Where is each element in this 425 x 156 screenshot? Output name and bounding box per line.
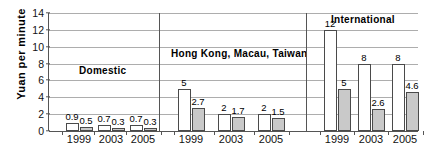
bar: [130, 125, 143, 131]
bar: [272, 118, 285, 131]
bar: [218, 114, 231, 131]
x-axis-label-2005: 2005: [393, 134, 417, 145]
y-tick-mark-6: [46, 80, 50, 81]
x-axis-label-2005: 2005: [131, 134, 155, 145]
x-tick-mark: [62, 131, 63, 135]
bar-value-label: 8: [361, 53, 366, 63]
bar: [144, 128, 157, 131]
y-tick-label-10: 10: [32, 41, 44, 52]
x-tick-mark: [289, 131, 290, 135]
bar-value-label: 0.7: [129, 114, 142, 124]
bar-value-label: 2: [221, 103, 226, 113]
panel-caption: International: [331, 14, 395, 25]
y-tick-mark-2: [46, 113, 50, 114]
y-tick-label-14: 14: [32, 8, 44, 19]
bar-value-label: 2.7: [191, 97, 204, 107]
x-axis-label-2003: 2003: [99, 134, 123, 145]
y-tick-mark-4: [46, 97, 50, 98]
panel-caption: Hong Kong, Macau, Taiwan: [171, 48, 307, 59]
bar-value-label: 2: [261, 103, 266, 113]
bar: [178, 89, 191, 131]
bar-value-label: 2.6: [371, 98, 384, 108]
y-tick-mark-0: [46, 130, 50, 131]
gridline-0: [49, 131, 418, 132]
panel-separator: [306, 13, 307, 131]
bar-value-label: 0.5: [79, 116, 92, 126]
x-tick-mark: [214, 131, 215, 135]
bar-chart: Yuan per minute 02468101214Domestic0.90.…: [0, 0, 425, 156]
panel-separator: [159, 13, 160, 131]
bar-value-label: 0.7: [97, 114, 110, 124]
bar-value-label: 1.5: [271, 107, 284, 117]
x-tick-mark: [161, 131, 162, 135]
bar: [192, 108, 205, 131]
y-tick-label-4: 4: [38, 92, 44, 103]
bar: [324, 30, 337, 131]
bar-value-label: 4.6: [405, 81, 418, 91]
bar: [112, 128, 125, 131]
x-tick-mark: [388, 131, 389, 135]
bar-value-label: 5: [181, 78, 186, 88]
bar-value-label: 0.9: [65, 112, 78, 122]
bar: [80, 127, 93, 131]
x-tick-mark: [126, 131, 127, 135]
y-tick-mark-10: [46, 46, 50, 47]
x-axis-label-2005: 2005: [259, 134, 283, 145]
x-axis-label-1999: 1999: [325, 134, 349, 145]
bar: [358, 64, 371, 131]
bar: [406, 92, 419, 131]
bar-value-label: 5: [341, 78, 346, 88]
bar-value-label: 0.3: [111, 117, 124, 127]
bar: [372, 109, 385, 131]
x-axis-label-2003: 2003: [219, 134, 243, 145]
y-tick-label-6: 6: [38, 75, 44, 86]
y-tick-label-12: 12: [32, 25, 44, 36]
bar-value-label: 1.7: [231, 106, 244, 116]
x-tick-mark: [320, 131, 321, 135]
bar: [392, 64, 405, 131]
bar: [232, 117, 245, 131]
gridline-12: [49, 30, 418, 31]
y-tick-label-8: 8: [38, 58, 44, 69]
bar-value-label: 12: [325, 19, 336, 29]
bar-value-label: 0.3: [143, 117, 156, 127]
x-axis-label-1999: 1999: [67, 134, 91, 145]
x-tick-mark: [254, 131, 255, 135]
bar-value-label: 8: [395, 53, 400, 63]
bar: [98, 125, 111, 131]
plot-area: 02468101214Domestic0.90.519990.70.320030…: [48, 13, 417, 131]
x-tick-mark: [354, 131, 355, 135]
bar: [66, 123, 79, 131]
x-tick-mark: [94, 131, 95, 135]
y-axis-title: Yuan per minute: [15, 0, 27, 109]
y-tick-label-2: 2: [38, 109, 44, 120]
x-axis-label-2003: 2003: [359, 134, 383, 145]
y-tick-mark-12: [46, 29, 50, 30]
y-tick-label-0: 0: [38, 126, 44, 137]
x-axis-label-1999: 1999: [179, 134, 203, 145]
y-tick-mark-14: [46, 12, 50, 13]
x-tick-mark: [423, 131, 424, 135]
bar: [258, 114, 271, 131]
x-tick-mark: [174, 131, 175, 135]
panel-caption: Domestic: [79, 65, 126, 76]
bar: [338, 89, 351, 131]
y-tick-mark-8: [46, 63, 50, 64]
